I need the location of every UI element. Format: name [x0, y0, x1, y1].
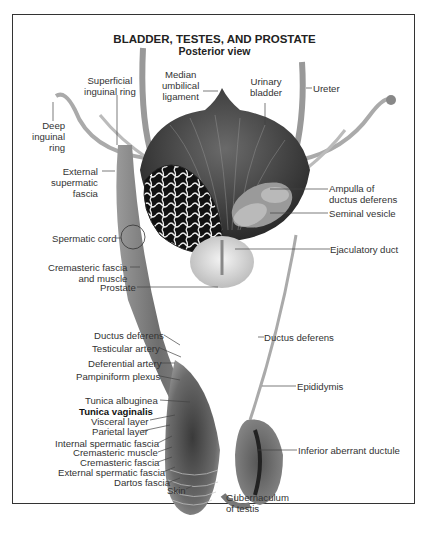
label-deep-inguinal-ring: Deep inguinal ring [32, 120, 65, 153]
label-inferior-aberrant-ductule: Inferior aberrant ductule [298, 445, 400, 456]
label-ejaculatory-duct: Ejaculatory duct [330, 244, 398, 255]
label-testicular-artery: Testicular artery [92, 343, 160, 354]
label-ductus-deferens-left: Ductus deferens [264, 332, 334, 343]
label-urinary-bladder: Urinary bladder [250, 76, 282, 98]
label-line: inguinal [32, 131, 65, 142]
label-median-umbilical-ligament: Median umbilical ligament [162, 69, 199, 102]
label-gubernaculum: Gubernaculum of testis [226, 492, 289, 514]
label-line: Cremasteric fascia [48, 262, 127, 273]
label-line: External [51, 166, 98, 177]
label-line: ring [32, 142, 65, 153]
label-cremasteric-fascia-muscle: Cremasteric fascia and muscle [48, 262, 127, 284]
label-line: umbilical [162, 80, 199, 91]
label-line: bladder [250, 87, 282, 98]
label-line: inguinal ring [84, 86, 136, 97]
label-tunica-albuginea: Tunica albuginea [85, 395, 158, 406]
label-line: Superficial [84, 75, 136, 86]
label-prostate: Prostate [100, 282, 136, 293]
label-parietal-layer: Parietal layer [92, 426, 148, 437]
label-line: supermatic [51, 177, 98, 188]
label-line: Gubernaculum [226, 492, 289, 503]
label-epididymis: Epididymis [297, 381, 343, 392]
label-external-supermatic-fascia: External supermatic fascia [51, 166, 98, 199]
label-line: ligament [162, 91, 199, 102]
label-ductus-deferens-right: Ductus deferens [94, 330, 164, 341]
label-skin: Skin [167, 485, 186, 496]
label-line: ductus deferens [329, 194, 397, 205]
label-pampiniform-plexus: Pampiniform plexus [76, 371, 160, 382]
label-line: Urinary [250, 76, 282, 87]
label-ampulla: Ampulla of ductus deferens [329, 183, 397, 205]
label-line: of testis [226, 503, 289, 514]
label-superficial-inguinal-ring: Superficial inguinal ring [84, 75, 136, 97]
label-dartos-fascia: Dartos fascia [114, 477, 170, 488]
label-spermatic-cord: Spermatic cord [52, 233, 117, 244]
label-line: fascia [51, 188, 98, 199]
label-line: Median [162, 69, 199, 80]
label-line: Ampulla of [329, 183, 397, 194]
label-line: Deep [32, 120, 65, 131]
label-seminal-vesicle: Seminal vesicle [329, 208, 396, 219]
label-deferential-artery: Deferential artery [88, 358, 162, 369]
label-ureter: Ureter [313, 83, 340, 94]
